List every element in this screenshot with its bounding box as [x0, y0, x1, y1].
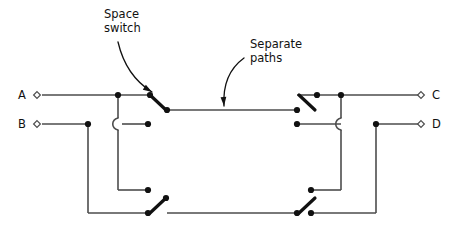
port-marker-d-icon[interactable] — [418, 121, 425, 128]
port-a: A — [18, 88, 40, 102]
node-d-junction — [373, 121, 379, 127]
node-b-junction — [85, 121, 91, 127]
circuit-canvas: ABCD SpaceswitchSeparatepaths — [0, 0, 455, 231]
port-b: B — [18, 117, 40, 131]
annotation-space-switch-line1: Space — [104, 7, 139, 21]
node-d-contact — [294, 121, 300, 127]
annotation-separate-paths: Separatepaths — [221, 37, 303, 106]
node-c-junction — [338, 92, 344, 98]
port-c: C — [418, 88, 440, 102]
node-upper-right-throw — [294, 107, 300, 113]
port-marker-c-icon[interactable] — [418, 92, 425, 99]
port-label-b: B — [18, 117, 26, 131]
node-c-lower-contact — [308, 187, 314, 193]
node-a-junction — [115, 92, 121, 98]
switch-blades-layer — [150, 95, 315, 213]
port-marker-a-icon[interactable] — [34, 92, 41, 99]
port-label-c: C — [432, 88, 440, 102]
port-marker-b-icon[interactable] — [34, 121, 41, 128]
node-lower-right-throw — [294, 210, 300, 216]
port-label-a: A — [18, 88, 26, 102]
port-label-d: D — [432, 117, 441, 131]
port-d: D — [418, 117, 441, 131]
annotation-space-switch-line2: switch — [104, 21, 141, 35]
wires-layer — [42, 95, 418, 213]
annotation-separate-paths-leader-line — [224, 58, 244, 106]
node-upper-left-throw — [164, 107, 170, 113]
left-wire-hop — [113, 118, 118, 130]
annotations-layer: SpaceswitchSeparatepaths — [104, 7, 302, 106]
node-d-lower-pole — [308, 210, 314, 216]
annotation-space-switch-leader-line — [118, 42, 152, 92]
upper-left-blade[interactable] — [150, 95, 166, 110]
node-c-pole — [314, 92, 320, 98]
node-lower-left-throw — [163, 195, 169, 201]
annotation-space-switch: Spaceswitch — [104, 7, 152, 92]
annotation-separate-paths-line1: Separate — [250, 37, 302, 51]
upper-right-blade[interactable] — [299, 95, 315, 110]
node-a-lower-contact — [145, 187, 151, 193]
node-b-contact — [145, 121, 151, 127]
space-switch-diagram: ABCD SpaceswitchSeparatepaths — [0, 0, 455, 231]
lower-left-blade[interactable] — [150, 198, 166, 213]
annotation-separate-paths-line2: paths — [250, 51, 282, 65]
node-a-switch-pole — [147, 92, 153, 98]
node-b-lower-pole — [145, 210, 151, 216]
